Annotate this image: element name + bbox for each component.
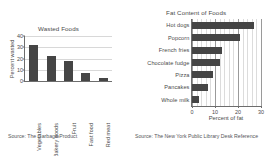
y-axis-tick-mark [23,47,25,48]
fat-content-plot-area: 0102030Hot dogsPopcornFrench friesChocol… [191,19,261,107]
y-axis-tick-mark [23,58,25,59]
y-axis-category-label: Whole milk [161,97,189,103]
bar [192,34,240,41]
chart-title-fat-content: Fat Content of Foods [166,9,226,16]
gridline-vertical [220,19,221,106]
gridline-horizontal [25,36,112,37]
bar [99,78,108,81]
gridline-vertical [247,19,248,106]
y-axis-category-label: French fries [159,47,190,53]
x-axis-tick-mark [192,106,193,108]
gridline-vertical [243,19,244,106]
gridline-vertical [233,19,234,106]
fat-content-chart-panel: Fat Content of Foods 0102030Hot dogsPopc… [133,0,273,156]
gridline-vertical [238,19,239,106]
x-axis-tick-label: 30 [258,109,264,115]
gridline-vertical [261,19,262,106]
x-axis-tick-mark [238,106,239,108]
bar [192,59,220,66]
bar [192,96,199,103]
gridline-vertical [252,19,253,106]
gridline-vertical [224,19,225,106]
two-chart-figure: Wasted Foods Percent wasted 010203040Veg… [0,0,273,156]
wasted-foods-chart-panel: Wasted Foods Percent wasted 010203040Veg… [0,0,133,156]
x-axis-tick-mark [261,106,262,108]
x-axis-tick-mark [215,106,216,108]
category-label: Red meat [105,123,111,147]
bar [47,56,56,81]
bar [64,61,73,81]
gridline-vertical [256,19,257,106]
bar [29,45,38,81]
category-label: Fast food [88,123,94,146]
x-axis-title-percent-of-fat: Percent of fat [191,115,261,121]
x-axis-tick-label: 20 [235,109,241,115]
y-axis-tick-mark [23,69,25,70]
category-label: Bakery goods [53,123,59,156]
y-axis-category-label: Hot dogs [166,22,189,28]
bar [192,22,254,29]
x-axis-tick-label: 0 [191,109,194,115]
y-axis-category-label: Chocolate fudge [147,60,189,66]
bar [192,71,213,78]
y-axis-title-percent-wasted: Percent wasted [9,36,15,82]
chart-title-wasted-foods: Wasted Foods [38,25,79,32]
bar [192,47,222,54]
y-axis-tick-mark [23,36,25,37]
bar [192,84,208,91]
gridline-vertical [229,19,230,106]
y-axis-category-label: Pizza [175,72,189,78]
y-axis-category-label: Pancakes [164,84,189,90]
bar [81,73,90,81]
y-axis-category-label: Popcorn [168,35,190,41]
source-caption-ny-public-library: Source: The New York Public Library Desk… [135,133,258,139]
y-axis-tick-mark [23,81,25,82]
wasted-foods-plot-area: 010203040VegetablesBakery goodsFruitFast… [24,36,112,82]
source-caption-garbage-product: Source: The Garbage Product [8,133,77,139]
x-axis-tick-label: 10 [212,109,218,115]
